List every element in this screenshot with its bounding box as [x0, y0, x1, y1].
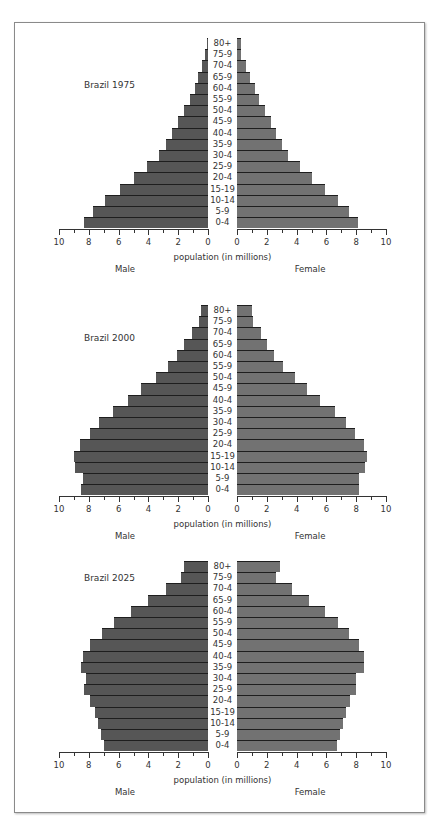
- female-bar: [237, 217, 358, 228]
- age-group-label: 55-9: [208, 361, 237, 372]
- axis-tick: [386, 496, 387, 502]
- female-tick-label: 2: [257, 504, 277, 514]
- male-bar: [105, 195, 208, 206]
- age-group-label: 15-19: [208, 707, 237, 718]
- age-group-label: 5-9: [208, 729, 237, 740]
- age-group-label: 75-9: [208, 572, 237, 583]
- male-bar: [134, 172, 209, 183]
- male-bar: [168, 361, 208, 372]
- axis-tick: [297, 752, 298, 758]
- axis-tick: [356, 752, 357, 758]
- female-bar: [237, 372, 295, 383]
- female-bar: [237, 105, 265, 116]
- axis-tick: [252, 496, 253, 500]
- female-tick-label: 2: [257, 760, 277, 770]
- age-group-label: 60-4: [208, 350, 237, 361]
- male-bar: [192, 327, 208, 338]
- age-group-label: 50-4: [208, 372, 237, 383]
- male-tick-label: 10: [49, 760, 69, 770]
- axis-tick: [237, 752, 238, 758]
- female-bar: [237, 83, 255, 94]
- age-group-label: 25-9: [208, 684, 237, 695]
- chart-title: Brazil 1975: [84, 80, 135, 90]
- axis-tick: [59, 752, 60, 758]
- age-group-label: 70-4: [208, 60, 237, 71]
- axis-tick: [163, 229, 164, 233]
- female-tick-label: 2: [257, 237, 277, 247]
- female-tick-label: 8: [346, 237, 366, 247]
- age-group-label: 20-4: [208, 439, 237, 450]
- axis-tick: [386, 229, 387, 235]
- female-bar: [237, 662, 364, 673]
- female-bar: [237, 339, 267, 350]
- axis-tick: [104, 229, 105, 233]
- female-bar: [237, 695, 350, 706]
- age-group-label: 35-9: [208, 406, 237, 417]
- male-bar: [95, 707, 208, 718]
- male-bar: [184, 105, 208, 116]
- age-group-label: 5-9: [208, 473, 237, 484]
- axis-tick: [178, 752, 179, 758]
- age-group-label: 75-9: [208, 49, 237, 60]
- axis-tick: [119, 229, 120, 235]
- male-tick-label: 2: [168, 504, 188, 514]
- female-bar: [237, 595, 309, 606]
- axis-tick: [89, 496, 90, 502]
- female-bar: [237, 428, 355, 439]
- male-bar: [113, 406, 208, 417]
- age-group-label: 55-9: [208, 94, 237, 105]
- male-bar: [99, 417, 208, 428]
- male-tick-label: 4: [138, 760, 158, 770]
- male-tick-label: 10: [49, 504, 69, 514]
- age-group-label: 80+: [208, 38, 237, 49]
- male-bar: [178, 116, 208, 127]
- axis-tick: [148, 229, 149, 235]
- age-group-label: 30-4: [208, 150, 237, 161]
- axis-tick: [104, 496, 105, 500]
- axis-tick: [282, 752, 283, 756]
- male-bar: [90, 428, 208, 439]
- male-bar: [83, 651, 208, 662]
- male-tick-label: 10: [49, 237, 69, 247]
- female-bar: [237, 718, 343, 729]
- axis-tick: [74, 496, 75, 500]
- male-bar: [128, 395, 208, 406]
- x-axis-label: population (in millions): [150, 775, 295, 785]
- axis-tick: [326, 229, 327, 235]
- male-bar: [80, 439, 208, 450]
- female-tick-label: 8: [346, 760, 366, 770]
- female-tick-label: 0: [227, 504, 247, 514]
- axis-tick: [59, 496, 60, 502]
- female-bar: [237, 583, 292, 594]
- female-bar: [237, 606, 325, 617]
- female-tick-label: 0: [227, 237, 247, 247]
- age-group-label: 10-14: [208, 718, 237, 729]
- female-tick-label: 4: [287, 504, 307, 514]
- axis-tick: [104, 752, 105, 756]
- axis-tick: [252, 752, 253, 756]
- female-bar: [237, 707, 346, 718]
- male-bar: [159, 150, 208, 161]
- male-bar: [199, 316, 208, 327]
- axis-tick: [163, 496, 164, 500]
- axis-tick: [297, 229, 298, 235]
- female-bar: [237, 161, 300, 172]
- male-bar: [83, 473, 208, 484]
- axis-tick: [119, 752, 120, 758]
- male-side-label: Male: [95, 531, 155, 541]
- age-group-label: 10-14: [208, 462, 237, 473]
- female-bar: [237, 361, 283, 372]
- axis-tick: [208, 229, 209, 235]
- axis-tick: [193, 752, 194, 756]
- male-tick-label: 4: [138, 237, 158, 247]
- female-tick-label: 0: [227, 760, 247, 770]
- female-bar: [237, 184, 325, 195]
- axis-tick: [312, 229, 313, 233]
- age-group-label: 60-4: [208, 606, 237, 617]
- female-bar: [237, 305, 252, 316]
- axis-tick: [371, 229, 372, 233]
- male-bar: [190, 94, 208, 105]
- chart-title: Brazil 2000: [84, 333, 135, 343]
- female-bar: [237, 740, 337, 751]
- male-bar: [147, 161, 208, 172]
